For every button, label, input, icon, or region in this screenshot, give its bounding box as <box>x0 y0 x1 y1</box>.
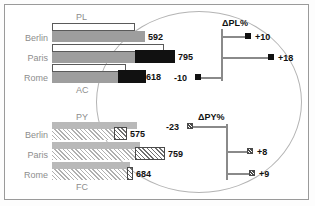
panel-bottom-actual-label: FC <box>76 183 88 192</box>
forecast-bar-paris-bottom <box>52 149 135 160</box>
value-label-rome-bottom: 684 <box>136 170 151 179</box>
variance-bar-rome-top <box>118 70 146 83</box>
variance-top-value-2: -10 <box>174 74 187 83</box>
variance-bottom-value-1: +8 <box>257 148 267 157</box>
variance-top-marker-1 <box>268 54 274 60</box>
category-label-paris-bottom: Paris <box>6 151 48 160</box>
actual-bar-rome-top <box>52 72 118 83</box>
variance-bar-paris-top <box>135 50 175 63</box>
variance-top-pin-0 <box>223 36 247 38</box>
forecast-bar-rome-bottom <box>52 169 127 180</box>
variance-bottom-marker-2 <box>249 170 255 176</box>
variance-bottom-header: ΔPY% <box>198 113 224 122</box>
plan-outline-berlin-top <box>52 23 135 31</box>
variance-bottom-value-0: -23 <box>166 123 179 132</box>
variance-bar-berlin-bottom <box>114 127 127 140</box>
variance-top-value-1: +18 <box>278 54 293 63</box>
value-label-paris-bottom: 759 <box>168 150 183 159</box>
category-label-paris-top: Paris <box>6 54 48 63</box>
variance-bottom-marker-1 <box>247 148 253 154</box>
panel-top-actual-label: AC <box>76 86 89 95</box>
variance-bottom-pin-1 <box>228 151 249 153</box>
actual-bar-berlin-top <box>52 31 145 42</box>
value-label-paris-top: 795 <box>178 53 193 62</box>
category-label-rome-bottom: Rome <box>6 171 48 180</box>
variance-top-header: ΔPL% <box>222 19 248 28</box>
actual-bar-paris-top <box>52 52 135 63</box>
panel-bottom-plan-label: PY <box>76 113 88 122</box>
variance-bottom-marker-0 <box>187 123 193 129</box>
plan-outline-rome-top <box>52 64 126 72</box>
variance-top-marker-2 <box>195 74 201 80</box>
category-label-rome-top: Rome <box>6 74 48 83</box>
category-label-berlin-bottom: Berlin <box>6 131 48 140</box>
variance-top-value-0: +10 <box>255 33 270 42</box>
prioryear-bar-paris-bottom <box>52 142 140 149</box>
forecast-bar-berlin-bottom <box>52 129 114 140</box>
variance-bottom-value-2: +9 <box>259 170 269 179</box>
variance-bar-paris-bottom <box>135 147 165 160</box>
variance-top-pin-1 <box>223 57 270 59</box>
panel-top-plan-label: PL <box>76 13 87 22</box>
value-label-berlin-top: 592 <box>148 33 163 42</box>
value-label-rome-top: 618 <box>146 73 161 82</box>
variance-bottom-pin-2 <box>228 173 251 175</box>
variance-top-marker-0 <box>245 33 251 39</box>
variance-bar-rome-bottom <box>127 167 133 180</box>
prioryear-bar-rome-bottom <box>52 162 130 169</box>
value-label-berlin-bottom: 575 <box>130 130 145 139</box>
variance-bottom-pin-0 <box>190 126 227 128</box>
category-label-berlin-top: Berlin <box>6 34 48 43</box>
chart-canvas: PL Berlin Paris Rome 592 795 618 AC PY B… <box>0 0 315 206</box>
